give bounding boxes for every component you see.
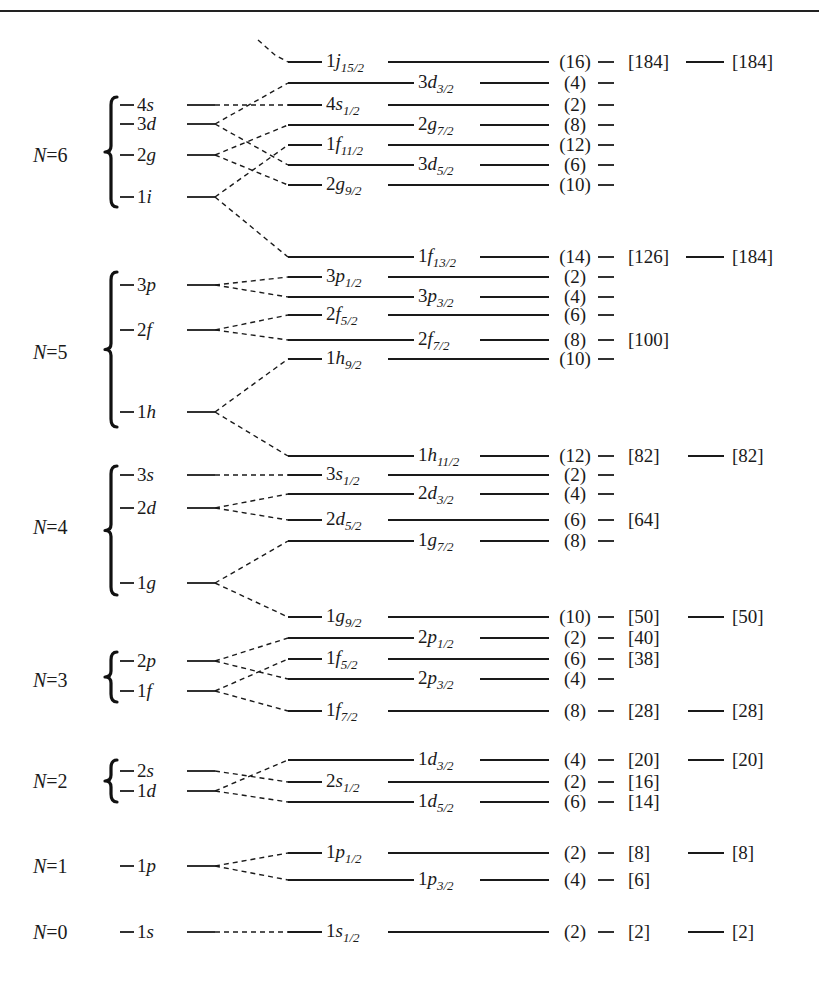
shell-label-N6: N=6 — [32, 144, 68, 166]
degeneracy: (10) — [559, 606, 591, 628]
level-2d3-2: 2d3/2(4) — [288, 482, 614, 507]
orbital-levels: 1s1p2s1d2p1f3s2d1g3p2f1h4s3d2g1i — [120, 94, 215, 942]
connection-1p-1p1-2 — [215, 853, 288, 866]
svg-text:1g: 1g — [137, 572, 156, 593]
level-label: 1f11/2 — [326, 133, 363, 158]
svg-text:1d: 1d — [137, 780, 157, 801]
level-1s1-2: 1s1/2(2)[2][2] — [288, 920, 754, 945]
connection-2g-2g9-2 — [215, 155, 288, 185]
orbital-2d: 2d — [120, 497, 215, 518]
degeneracy: (4) — [564, 72, 586, 94]
orbital-4s: 4s — [120, 94, 215, 115]
orbital-3p: 3p — [120, 274, 215, 295]
cumulative-count: [14] — [628, 791, 660, 812]
cumulative-count: [38] — [628, 648, 660, 669]
svg-text:3s: 3s — [137, 464, 154, 485]
level-label: 3d3/2 — [418, 71, 454, 96]
connection-2f-2f7-2 — [215, 330, 288, 340]
degeneracy: (2) — [564, 771, 586, 793]
degeneracy: (10) — [559, 348, 591, 370]
svg-text:2f: 2f — [137, 319, 155, 340]
degeneracy: (8) — [564, 700, 586, 722]
level-label: 1g9/2 — [326, 605, 362, 630]
level-label: 2g9/2 — [326, 173, 362, 198]
svg-text:1f: 1f — [137, 680, 155, 701]
level-label: 1h9/2 — [326, 347, 362, 372]
degeneracy: (10) — [559, 174, 591, 196]
degeneracy: (2) — [564, 266, 586, 288]
degeneracy: (4) — [564, 869, 586, 891]
level-1f13-2: 1f13/2(14)[126][184] — [288, 245, 773, 270]
svg-text:4s: 4s — [137, 94, 154, 115]
orbital-1p: 1p — [120, 855, 215, 876]
degeneracy: (6) — [564, 154, 586, 176]
level-2p1-2: 2p1/2(2)[40] — [288, 626, 660, 651]
orbital-3d: 3d — [120, 113, 215, 134]
level-label: 1f13/2 — [418, 245, 456, 270]
level-label: 1g7/2 — [418, 529, 454, 554]
connection-2f-2f5-2 — [215, 315, 288, 330]
level-2d5-2: 2d5/2(6)[64] — [288, 508, 660, 533]
level-label: 2f5/2 — [326, 303, 358, 328]
cumulative-count: [16] — [628, 771, 660, 792]
orbital-1d: 1d — [120, 780, 215, 801]
orbital-1s: 1s — [120, 921, 215, 942]
svg-text:2p: 2p — [137, 650, 156, 671]
orbital-2s: 2s — [120, 760, 215, 781]
level-label: 2d5/2 — [326, 508, 362, 533]
level-label: 3d5/2 — [418, 153, 454, 178]
level-label: 3p1/2 — [326, 265, 362, 290]
svg-text:1s: 1s — [137, 921, 154, 942]
magic-number: [20] — [732, 749, 764, 770]
level-label: 1s1/2 — [326, 920, 360, 945]
shell-label-N4: N=4 — [32, 516, 68, 538]
connection-3p-3p1-2 — [215, 277, 288, 285]
degeneracy: (2) — [564, 921, 586, 943]
cumulative-count: [28] — [628, 700, 660, 721]
degeneracy: (16) — [559, 51, 591, 73]
level-label: 2f7/2 — [418, 328, 450, 353]
connection-1h-1h11-2 — [215, 412, 288, 456]
connection-2d-2d3-2 — [215, 494, 288, 508]
degeneracy: (2) — [564, 627, 586, 649]
degeneracy: (4) — [564, 668, 586, 690]
level-2f7-2: 2f7/2(8)[100] — [288, 328, 669, 353]
shell-label-N3: N=3 — [32, 669, 68, 691]
degeneracy: (14) — [559, 246, 591, 268]
cumulative-count: [50] — [628, 606, 660, 627]
level-label: 4s1/2 — [326, 93, 360, 118]
magic-number: [2] — [732, 921, 754, 942]
level-1f5-2: 1f5/2(6)[38] — [288, 647, 660, 672]
degeneracy: (2) — [564, 842, 586, 864]
cumulative-count: [64] — [628, 509, 660, 530]
orbital-2g: 2g — [120, 144, 215, 165]
level-label: 1p1/2 — [326, 841, 362, 866]
orbital-1g: 1g — [120, 572, 215, 593]
svg-text:2d: 2d — [137, 497, 157, 518]
connection-1g-1g9-2 — [215, 583, 288, 617]
magic-number: [82] — [732, 445, 764, 466]
connection-2s-2s1-2 — [215, 771, 288, 782]
connection-1h-1h9-2 — [215, 359, 288, 412]
connection-1d-1d5-2 — [215, 791, 288, 802]
degeneracy: (6) — [564, 648, 586, 670]
shell-labels: N=0N=1N=2N=3N=4N=5N=6 — [32, 97, 117, 943]
level-label: 3p3/2 — [418, 285, 454, 310]
degeneracy: (4) — [564, 749, 586, 771]
cumulative-count: [6] — [628, 869, 650, 890]
shell-label-N0: N=0 — [32, 921, 68, 943]
degeneracy: (2) — [564, 94, 586, 116]
level-label: 1d5/2 — [418, 790, 454, 815]
magic-number: [50] — [732, 606, 764, 627]
level-label: 2p3/2 — [418, 667, 454, 692]
cumulative-count: [126] — [628, 246, 669, 267]
degeneracy: (6) — [564, 304, 586, 326]
connection-1p-1p3-2 — [215, 866, 288, 880]
level-2s1-2: 2s1/2(2)[16] — [288, 770, 660, 795]
level-1p1-2: 1p1/2(2)[8][8] — [288, 841, 754, 866]
cumulative-count: [20] — [628, 749, 660, 770]
level-1f7-2: 1f7/2(8)[28][28] — [288, 699, 764, 724]
level-1h9-2: 1h9/2(10) — [288, 347, 614, 372]
connection-lines — [215, 40, 288, 932]
orbital-1f: 1f — [120, 680, 215, 701]
